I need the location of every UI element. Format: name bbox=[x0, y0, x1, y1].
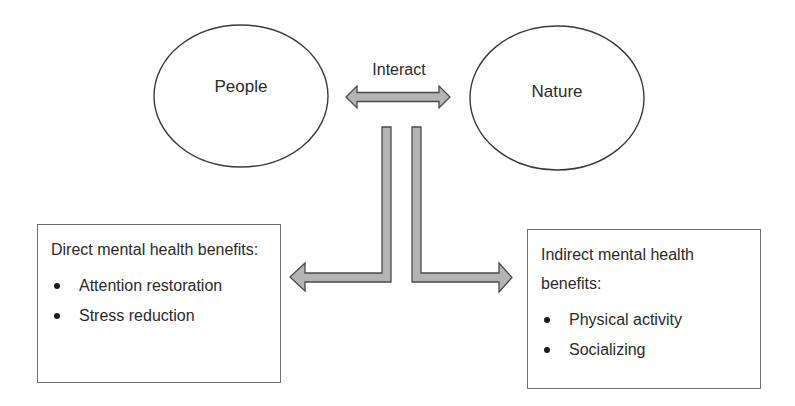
bullet-icon bbox=[54, 283, 60, 289]
direct-benefits-box: Direct mental health benefits: Attention… bbox=[37, 224, 281, 383]
list-item-text: Attention restoration bbox=[79, 277, 222, 294]
list-item: Attention restoration bbox=[51, 271, 280, 301]
nature-node-label: Nature bbox=[531, 82, 582, 102]
list-item-text: Socializing bbox=[569, 341, 645, 358]
list-item: Stress reduction bbox=[51, 301, 280, 331]
list-item-text: Physical activity bbox=[569, 311, 682, 328]
indirect-benefits-box: Indirect mental health benefits: Physica… bbox=[527, 229, 761, 389]
direct-benefits-arrow bbox=[290, 127, 391, 291]
indirect-benefits-list: Physical activity Socializing bbox=[541, 305, 760, 365]
people-node-label: People bbox=[215, 77, 268, 97]
bullet-icon bbox=[544, 317, 550, 323]
interact-double-arrow bbox=[346, 86, 450, 108]
bullet-icon bbox=[54, 313, 60, 319]
direct-benefits-title: Direct mental health benefits: bbox=[51, 235, 266, 264]
list-item: Socializing bbox=[541, 335, 760, 365]
indirect-benefits-title: Indirect mental health benefits: bbox=[541, 240, 756, 298]
interact-label: Interact bbox=[372, 61, 425, 79]
list-item-text: Stress reduction bbox=[79, 307, 195, 324]
list-item: Physical activity bbox=[541, 305, 760, 335]
bullet-icon bbox=[544, 347, 550, 353]
direct-benefits-list: Attention restoration Stress reduction bbox=[51, 271, 280, 331]
indirect-benefits-arrow bbox=[412, 127, 512, 292]
